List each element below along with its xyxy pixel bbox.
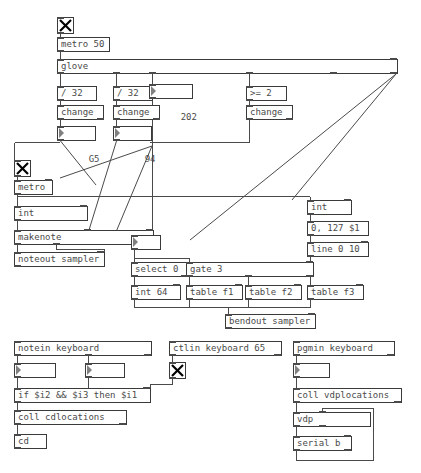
object-select-0[interactable]: select 0 [131,262,189,277]
object-table-f3[interactable]: table f3 [307,285,364,300]
number-box-33[interactable]: 33 [293,363,330,378]
object-int-right[interactable]: int [307,200,352,215]
metro-50-toggle[interactable] [57,17,74,34]
object-coll-vdplocations[interactable]: coll vdplocations [293,388,402,403]
object-table-f2[interactable]: table f2 [245,285,302,300]
object-change-c[interactable]: change [246,105,293,120]
object-int-left[interactable]: int [14,206,88,221]
object-pgmin-keyboard[interactable]: pgmin keyboard [293,341,395,356]
object-noteout-sampler[interactable]: noteout sampler [14,252,105,267]
number-box-g5-value: G5 [89,154,100,164]
number-box-fsharp4[interactable]: F#4 [14,363,56,378]
object-serial-b[interactable]: serial b [293,436,352,451]
object-gate-3[interactable]: gate 3 [186,262,314,277]
number-box-106[interactable]: 106 [85,363,125,378]
message-0-127-dollar1[interactable]: 0, 127 $1 [307,221,369,236]
object-table-f1[interactable]: table f1 [186,285,243,300]
object-expr-if[interactable]: if $i2 && $i3 then $i1 [14,388,151,403]
number-box-94-value: 94 [145,154,156,164]
object-change-a[interactable]: change [57,105,104,120]
numbox-triangle-icon [295,365,300,375]
object-divide-32-b[interactable]: / 32 [113,86,153,101]
number-box-202-value: 202 [181,112,197,122]
numbox-triangle-icon [151,86,156,96]
number-box-94[interactable]: 94 [113,126,152,141]
ctlin-toggle[interactable] [169,362,186,379]
object-change-b[interactable]: change [113,105,160,120]
numbox-triangle-icon [16,365,21,375]
toggle-x-icon [58,18,73,33]
numbox-triangle-icon [115,128,120,138]
object-cd[interactable]: cd [14,434,47,449]
number-box-202[interactable]: 202 [149,84,193,99]
object-bendout-sampler[interactable]: bendout sampler [225,314,316,329]
object-notein-keyboard[interactable]: notein keyboard [14,341,152,356]
toggle-x-icon [170,363,185,378]
object-coll-cdlocations[interactable]: coll cdlocations [14,410,127,425]
object-glove[interactable]: glove [57,59,398,74]
object-metro-50[interactable]: metro 50 [57,37,110,52]
object-greater-equal-2[interactable]: >= 2 [246,86,287,101]
object-divide-32-a[interactable]: / 32 [57,86,97,101]
numbox-triangle-icon [133,237,138,247]
object-int-64[interactable]: int 64 [131,285,181,300]
toggle-x-icon [15,161,30,176]
numbox-triangle-icon [59,128,64,138]
object-metro[interactable]: metro [14,180,53,195]
object-vdp[interactable]: vdp [293,412,371,427]
numbox-triangle-icon [87,365,92,375]
pd-patch-canvas: metro 50 glove / 32 / 32 202 >= 2 change… [0,0,421,473]
object-ctlin-keyboard-65[interactable]: ctlin keyboard 65 [169,341,282,356]
number-box-3[interactable]: 3 [131,235,161,250]
number-box-g5[interactable]: G5 [57,126,96,141]
metro-toggle[interactable] [14,160,31,177]
object-line-0-10[interactable]: line 0 10 [307,242,369,257]
